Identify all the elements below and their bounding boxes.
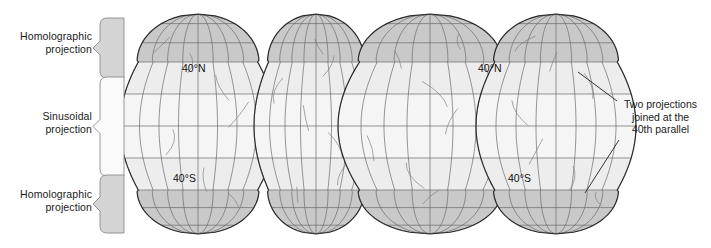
bracket-label-line1: Sinusoidal xyxy=(4,110,92,123)
leader-line-top xyxy=(578,72,617,101)
leader-line-bottom xyxy=(585,140,619,193)
annotation-line1: Two projections xyxy=(612,98,709,111)
annotation-two-projections: Two projections joined at the 40th paral… xyxy=(612,98,709,136)
annotation-line3: 40th parallel xyxy=(612,123,709,136)
bracket-label-line2: projection xyxy=(4,201,92,214)
homolosine-projection-figure: 40°N40°N40°S40°S Homolographic projectio… xyxy=(0,0,711,248)
bracket-label-line2: projection xyxy=(4,123,92,136)
bracket-label-line1: Homolographic xyxy=(4,30,92,43)
bracket-label-line1: Homolographic xyxy=(4,188,92,201)
bracket-label-homolographic-top: Homolographic projection xyxy=(4,30,92,55)
annotation-line2: joined at the xyxy=(612,111,709,124)
annotation-leader-lines xyxy=(0,0,711,248)
bracket-label-line2: projection xyxy=(4,43,92,56)
bracket-label-homolographic-bottom: Homolographic projection xyxy=(4,188,92,213)
bracket-label-sinusoidal: Sinusoidal projection xyxy=(4,110,92,135)
